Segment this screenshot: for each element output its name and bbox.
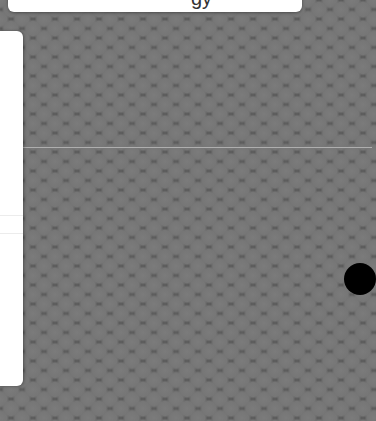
side-panel-divider [0,215,23,216]
map-gridline [0,147,372,148]
side-panel-divider [0,233,23,234]
top-header-panel: gy [8,0,302,12]
side-panel[interactable] [0,31,23,386]
header-title-partial: gy [191,0,212,8]
map-marker[interactable] [344,263,376,295]
